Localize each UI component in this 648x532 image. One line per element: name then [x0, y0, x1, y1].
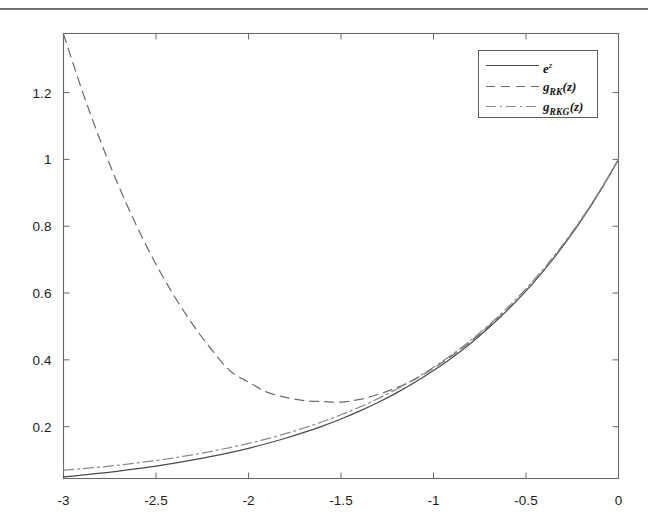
legend-label-exp: ez	[543, 56, 552, 78]
y-tick-label: 0.6	[0, 286, 52, 301]
legend-entry-exp: ez	[479, 55, 599, 76]
x-tick-label: -3	[57, 493, 69, 508]
legend-line-dashdot	[486, 106, 539, 107]
legend: ez gRK(z) gRKG(z)	[478, 50, 598, 118]
legend-label-g-rkg: gRKG(z)	[543, 97, 583, 122]
x-tick-label: -1.5	[329, 493, 353, 508]
y-tick-label: 0.2	[0, 419, 52, 434]
figure-stability-functions: 0.20.40.60.811.2 -3-2.5-2-1.5-1-0.50 ez …	[0, 0, 648, 532]
x-tick-label: -1	[427, 493, 439, 508]
legend-line-dashed	[486, 86, 539, 87]
y-tick-label: 0.4	[0, 352, 52, 367]
y-tick-label: 0.8	[0, 219, 52, 234]
x-tick-label: -2	[242, 493, 254, 508]
x-tick-label: -2.5	[144, 493, 168, 508]
y-tick-label: 1.2	[0, 85, 52, 100]
y-tick-label: 1	[0, 152, 52, 167]
legend-entry-g-rk: gRK(z)	[479, 76, 599, 97]
curve-g_RKG_z_	[64, 159, 619, 470]
scanned-page: 0.20.40.60.811.2 -3-2.5-2-1.5-1-0.50 ez …	[0, 0, 648, 532]
legend-line-solid	[486, 65, 539, 66]
curve-e_z	[64, 159, 619, 476]
x-tick-label: 0	[615, 493, 623, 508]
x-tick-label: -0.5	[514, 493, 538, 508]
legend-entry-g-rkg: gRKG(z)	[479, 96, 599, 117]
